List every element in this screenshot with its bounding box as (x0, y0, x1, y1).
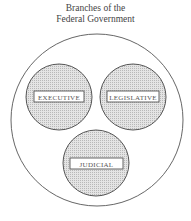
branches-diagram: EXECUTIVE LEGISLATIVE JUDICIAL (0, 0, 191, 221)
executive-branch: EXECUTIVE (26, 64, 92, 130)
judicial-label: JUDICIAL (80, 161, 114, 169)
executive-label: EXECUTIVE (38, 94, 80, 102)
legislative-branch: LEGISLATIVE (100, 64, 166, 130)
judicial-branch: JUDICIAL (63, 130, 129, 196)
legislative-label: LEGISLATIVE (109, 94, 157, 102)
